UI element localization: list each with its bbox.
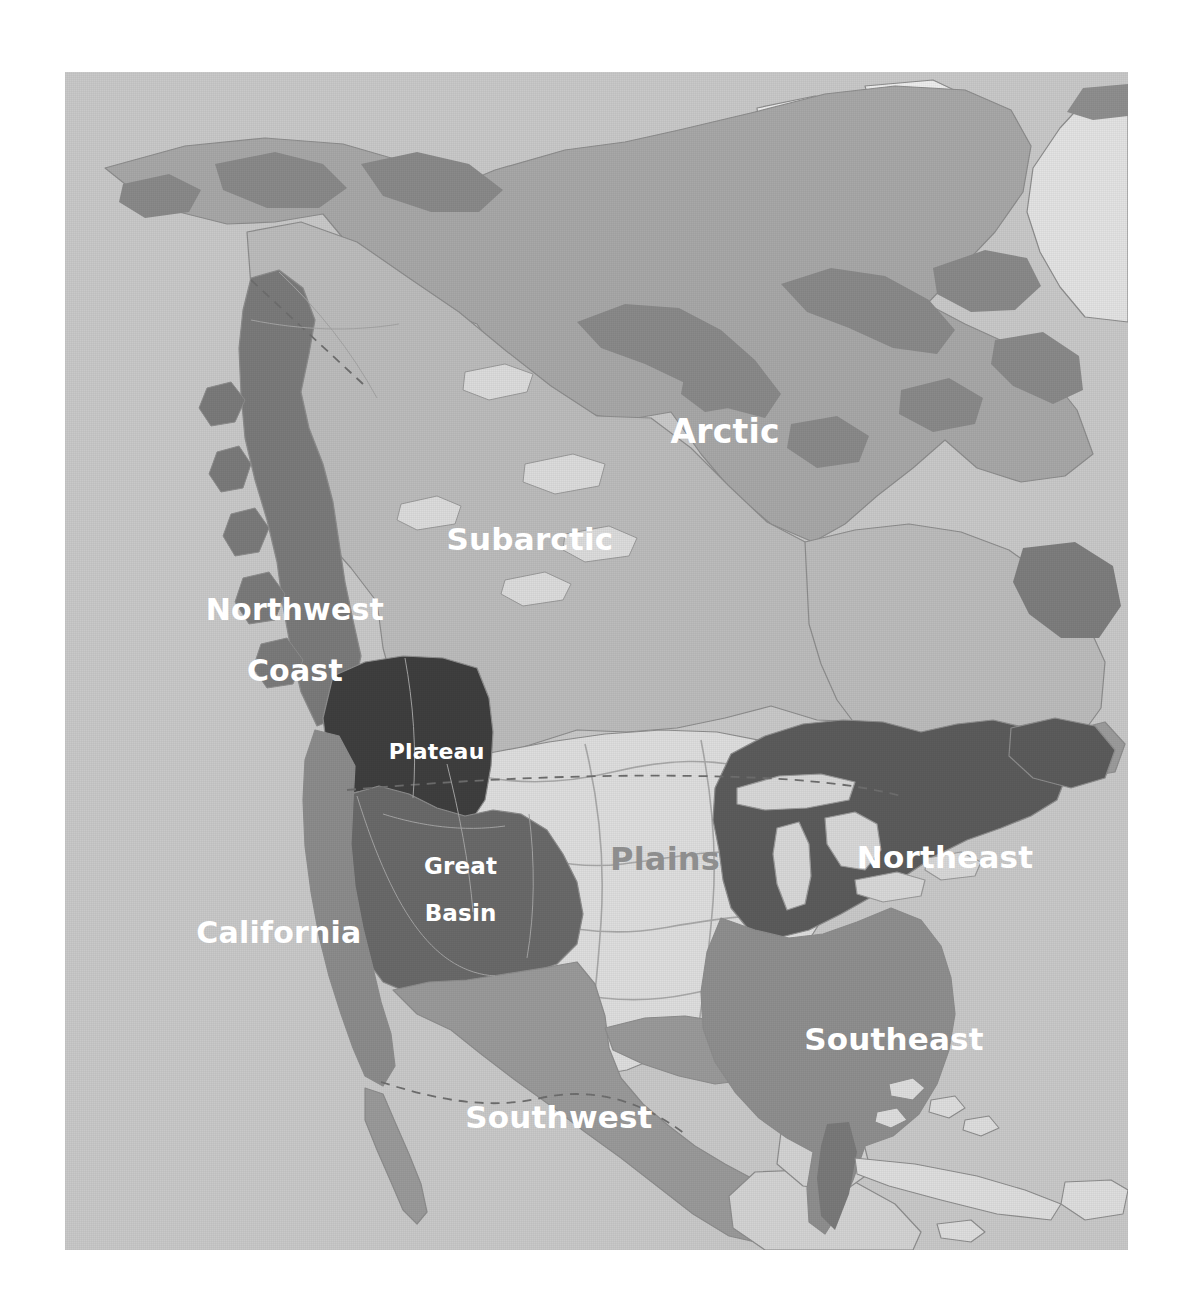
page-root: Arctic Subarctic Northwest Coast Plateau… [0,0,1185,1316]
map-svg [65,72,1128,1250]
culture-areas-map: Arctic Subarctic Northwest Coast Plateau… [65,72,1128,1250]
